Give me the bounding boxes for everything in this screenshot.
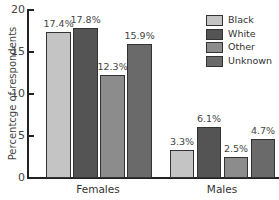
bar-males-unknown [251,139,275,178]
bar-females-unknown [127,44,152,178]
bar-value-label: 15.9% [125,30,155,41]
legend-label: White [228,28,256,40]
y-tick-label: 0 [3,172,25,183]
y-tick-label: 10 [3,88,25,99]
y-tick-label: 15 [3,46,25,57]
legend-label: Black [228,14,254,26]
bar-value-label: 12.3% [98,61,128,72]
legend-swatch [206,29,223,40]
bar-value-label: 17.4% [44,18,74,29]
y-tick [27,9,34,11]
legend-swatch [206,56,223,67]
x-category-label: Males [192,183,252,195]
bar-value-label: 17.8% [71,14,101,25]
y-tick [27,51,34,53]
y-tick-label: 20 [3,4,25,15]
legend-label: Unknown [228,55,272,67]
y-tick [27,177,34,179]
legend-label: Other [228,41,255,53]
bar-chart: Percentcge of respondents 05101520 17.4%… [0,0,279,200]
bar-males-black [170,150,194,178]
y-tick [27,135,34,137]
bar-value-label: 3.3% [167,136,197,147]
y-tick [27,93,34,95]
bar-males-other [224,157,248,178]
bar-males-white [197,127,221,178]
bar-value-label: 2.5% [221,143,251,154]
bar-females-white [73,28,98,178]
bar-females-black [46,32,71,178]
bar-females-other [100,75,125,178]
bar-value-label: 6.1% [194,113,224,124]
bar-value-label: 4.7% [248,125,278,136]
x-category-label: Females [68,183,128,195]
y-tick-label: 5 [3,130,25,141]
legend-swatch [206,42,223,53]
legend-swatch [206,15,223,26]
